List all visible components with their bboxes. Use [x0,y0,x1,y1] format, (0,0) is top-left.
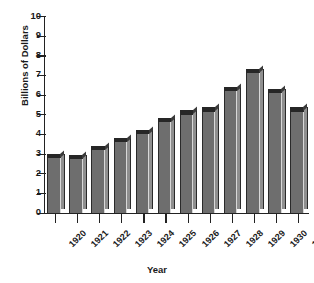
bar-top-face [202,107,216,111]
bar-top-face [114,138,128,142]
bar-1929 [246,69,260,213]
y-tick-label: 8 [36,49,41,60]
bar-side-face [127,138,131,209]
bar-top-face [224,87,238,91]
x-tick-label-1929: 1929 [266,228,287,249]
bar-top-face [91,146,105,150]
x-tick-label-1924: 1924 [155,228,176,249]
x-tick-label-1921: 1921 [89,228,110,249]
bar-top-face [290,107,304,111]
x-tick-mark [99,214,100,223]
plot-area: 012345678910 192019211922192319241925192… [44,16,309,214]
y-tick-label: 5 [36,108,41,119]
bar-1922 [91,146,105,213]
y-tick-label: 10 [30,10,41,21]
bar-front-face [224,91,238,213]
bar-side-face [171,118,175,208]
x-axis-title: Year [0,264,314,275]
bar-1926 [180,110,194,212]
x-tick-label-1920: 1920 [67,228,88,249]
x-tick-label-1930: 1930 [288,228,309,249]
x-tick-mark [188,214,189,223]
x-tick-label-1923: 1923 [133,228,154,249]
bar-front-face [246,73,260,212]
bar-1921 [69,155,83,213]
y-tick-label: 2 [36,167,41,178]
x-tick-mark [165,214,166,223]
x-tick-label-1931: 1931 [310,228,314,249]
bar-top-face [180,110,194,114]
bar-1930 [268,89,282,213]
bar-top-face [136,130,150,134]
bar-front-face [158,122,172,212]
bar-side-face [83,155,87,209]
y-tick-label: 4 [36,127,41,138]
bar-side-face [149,130,153,209]
bar-side-face [105,146,109,209]
bar-front-face [136,134,150,212]
bar-front-face [91,150,105,213]
bar-side-face [237,87,241,209]
bar-top-face [47,154,61,158]
bar-1928 [224,87,238,213]
x-tick-label-1922: 1922 [111,228,132,249]
x-tick-mark [77,214,78,223]
bar-front-face [69,159,83,213]
x-tick-mark [232,214,233,223]
x-tick-mark [298,214,299,223]
y-tick-label: 0 [36,206,41,217]
x-tick-mark [143,214,144,223]
bar-side-face [260,69,264,209]
bar-1923 [114,138,128,213]
x-axis-line [44,213,309,214]
y-tick-label: 3 [36,147,41,158]
bar-front-face [180,115,194,213]
x-tick-mark [276,214,277,223]
y-tick-label: 1 [36,186,41,197]
y-tick-label: 9 [36,29,41,40]
bar-1920 [47,154,61,213]
bar-side-face [215,107,219,208]
x-tick-mark [254,214,255,223]
y-tick-label: 6 [36,88,41,99]
bar-side-face [282,89,286,209]
x-tick-label-1926: 1926 [199,228,220,249]
bar-top-face [69,155,83,159]
x-tick-label-1928: 1928 [244,228,265,249]
y-tick-label: 7 [36,68,41,79]
bar-top-face [246,69,260,73]
x-tick-label-1927: 1927 [221,228,242,249]
y-axis-title: Billions of Dollars [19,6,30,126]
x-tick-mark [121,214,122,223]
bar-side-face [304,107,308,208]
x-tick-mark [210,214,211,223]
bar-chart: Billions of Dollars 012345678910 1920192… [0,0,314,283]
bar-front-face [290,112,304,213]
bar-1924 [136,130,150,213]
bar-front-face [268,93,282,213]
bar-front-face [202,112,216,213]
bar-front-face [47,158,61,213]
bar-1925 [158,118,172,212]
bar-1931 [290,107,304,212]
bar-1927 [202,107,216,212]
bar-side-face [193,110,197,208]
bar-front-face [114,142,128,213]
bar-side-face [61,154,65,209]
bar-top-face [268,89,282,93]
x-tick-mark [55,214,56,223]
bar-top-face [158,118,172,122]
x-tick-label-1925: 1925 [177,228,198,249]
